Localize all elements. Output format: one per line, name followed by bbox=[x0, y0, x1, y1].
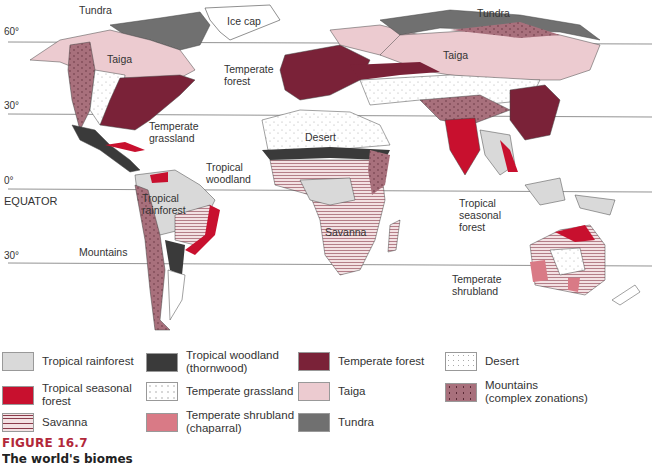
equator-label: EQUATOR bbox=[4, 195, 57, 207]
legend-item-mountains: Mountains (complex zonations) bbox=[445, 379, 588, 405]
swatch-savanna bbox=[2, 413, 34, 432]
swatch-tropical-rainforest bbox=[2, 352, 34, 371]
label-savanna: Savanna bbox=[325, 226, 366, 238]
legend-label: Tropical seasonal forest bbox=[42, 382, 132, 408]
africa-rainforest bbox=[300, 178, 355, 205]
legend-label: Tropical woodland (thornwood) bbox=[186, 349, 279, 375]
label-temperate-forest: Temperate forest bbox=[224, 63, 274, 87]
swatch-tundra bbox=[298, 413, 330, 432]
figure-title: FIGURE 16.7 bbox=[2, 436, 88, 450]
new-zealand bbox=[612, 285, 640, 305]
legend-item-savanna: Savanna bbox=[2, 413, 87, 432]
legend-label: Tundra bbox=[338, 416, 374, 429]
figure-caption: The world's biomes bbox=[2, 452, 133, 467]
label-ice-cap: Ice cap bbox=[227, 15, 261, 27]
legend-label: Tropical rainforest bbox=[42, 355, 134, 368]
label-desert: Desert bbox=[305, 131, 336, 143]
label-mountains: Mountains bbox=[79, 246, 127, 258]
madagascar bbox=[388, 220, 400, 252]
legend-label: Savanna bbox=[42, 416, 87, 429]
china-forest bbox=[510, 85, 560, 140]
legend-item-temperate-shrubland: Temperate shrubland (chaparral) bbox=[146, 409, 294, 435]
swatch-tropical-seasonal-forest bbox=[2, 386, 34, 405]
legend: Tropical rainforest Tropical seasonal fo… bbox=[0, 345, 652, 430]
africa-savanna bbox=[270, 160, 385, 275]
legend-item-temperate-grassland: Temperate grassland bbox=[146, 382, 293, 401]
label-tundra-na: Tundra bbox=[79, 4, 112, 16]
label-taiga-na: Taiga bbox=[107, 53, 132, 65]
aus-shrubland-s bbox=[568, 278, 580, 292]
legend-label: Temperate forest bbox=[338, 355, 424, 368]
swatch-desert bbox=[445, 352, 477, 371]
legend-item-tropical-rainforest: Tropical rainforest bbox=[2, 352, 134, 371]
lat-label-0: 0° bbox=[4, 175, 14, 186]
legend-item-tropical-woodland: Tropical woodland (thornwood) bbox=[146, 349, 279, 375]
swatch-taiga bbox=[298, 382, 330, 401]
sa-south bbox=[168, 270, 185, 320]
swatch-tropical-woodland bbox=[146, 353, 178, 372]
swatch-temperate-shrubland bbox=[146, 413, 178, 432]
na-mountains bbox=[68, 42, 95, 130]
label-temperate-grassland: Temperate grassland bbox=[149, 120, 199, 144]
india-seasonal bbox=[445, 118, 480, 175]
legend-label: Temperate shrubland (chaparral) bbox=[186, 409, 294, 435]
legend-label: Temperate grassland bbox=[186, 385, 293, 398]
legend-item-tropical-seasonal-forest: Tropical seasonal forest bbox=[2, 382, 132, 408]
lat-label-30s: 30° bbox=[4, 250, 19, 261]
africa-east bbox=[368, 150, 390, 195]
legend-label: Taiga bbox=[338, 385, 366, 398]
legend-label: Mountains (complex zonations) bbox=[485, 379, 588, 405]
label-tropical-rainforest: Tropical rainforest bbox=[142, 192, 186, 216]
label-tundra-asia: Tundra bbox=[477, 7, 510, 19]
legend-item-tundra: Tundra bbox=[298, 413, 374, 432]
legend-label: Desert bbox=[485, 355, 519, 368]
label-tropical-woodland: Tropical woodland bbox=[206, 161, 251, 185]
swatch-mountains bbox=[445, 383, 477, 402]
legend-item-temperate-forest: Temperate forest bbox=[298, 352, 424, 371]
swatch-temperate-grassland bbox=[146, 382, 178, 401]
legend-item-desert: Desert bbox=[445, 352, 519, 371]
indonesia bbox=[525, 178, 565, 205]
label-temperate-shrubland: Temperate shrubland bbox=[452, 273, 502, 297]
lat-label-30n: 30° bbox=[4, 100, 19, 111]
aus-shrubland-w bbox=[530, 260, 548, 282]
swatch-temperate-forest bbox=[298, 352, 330, 371]
new-guinea bbox=[575, 195, 615, 215]
label-tropical-seasonal-forest: Tropical seasonal forest bbox=[459, 197, 501, 233]
legend-item-taiga: Taiga bbox=[298, 382, 366, 401]
world-biome-map bbox=[0, 0, 652, 335]
label-taiga-asia: Taiga bbox=[443, 49, 468, 61]
lat-label-60n: 60° bbox=[4, 26, 19, 37]
